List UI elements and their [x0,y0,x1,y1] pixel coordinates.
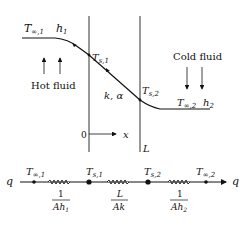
hot-fluid-label: Hot fluid [31,80,76,91]
x-axis-label: x [123,129,129,140]
svg-text:Ah1: Ah1 [52,202,69,213]
node-t-inf-2 [204,180,208,184]
resistance-2: L Ak [111,189,128,212]
q-left-label: q [6,175,13,188]
cold-fluid-label: Cold fluid [173,51,223,62]
node-label: Ts,2 [144,166,161,179]
resistance-1: 1 Ah1 [52,189,70,213]
node-label: T∞,1 [26,166,45,179]
resistor-zigzags [48,180,190,184]
resistance-3: 1 Ah2 [170,189,188,213]
svg-text:Ak: Ak [112,202,125,212]
ts1-label: Ts,1 [92,52,109,65]
L-label: L [142,143,150,154]
node-t-inf-1 [32,180,36,184]
node-label: Ts,1 [86,166,103,179]
h2-label: h2 [203,97,214,110]
node-label: T∞,2 [196,166,216,179]
node-ts2 [145,179,150,184]
origin-label: 0 [81,130,87,140]
svg-text:Ah2: Ah2 [170,202,187,213]
svg-text:1: 1 [58,189,64,199]
k-alpha-label: k, α [104,90,123,101]
plane-wall-diagram: T∞,1 h1 Hot fluid Ts,1 k, α Ts,2 Cold fl… [0,0,247,226]
node-ts1 [86,179,91,184]
t-inf-2-label: T∞,2 [177,97,197,110]
profile-arrow-icon [106,68,110,72]
svg-text:L: L [116,189,123,199]
q-right-label: q [232,175,239,188]
ts2-label: Ts,2 [142,85,159,98]
t-inf-1-label: T∞,1 [24,22,44,36]
svg-text:1: 1 [177,189,183,199]
h1-label: h1 [56,22,68,36]
